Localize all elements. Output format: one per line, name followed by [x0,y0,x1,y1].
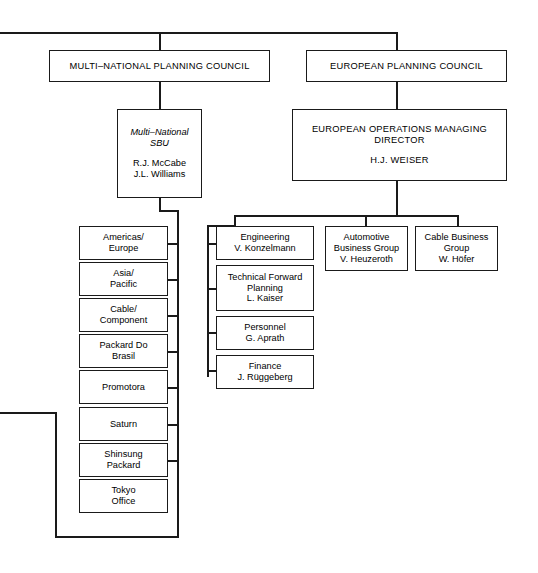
sbu-unit-7-line1: Shinsung [104,449,142,460]
box-multi-national-planning-council[interactable]: MULTI–NATIONAL PLANNING COUNCIL [49,50,270,82]
connector-epc-to-eomd [396,82,398,109]
connector-european-bus [234,215,458,217]
eomd-title-line1: EUROPEAN OPERATIONS MANAGING [312,124,487,135]
european-function-3-line2: G. Aprath [246,333,285,344]
eomd-title-line2: DIRECTOR [374,135,424,146]
connector-sbu-spine [177,210,179,537]
european-function-3-line1: Personnel [244,322,285,333]
box-european-business-group-2[interactable]: Cable Business Group W. Höfer [415,226,498,271]
epc-label: EUROPEAN PLANNING COUNCIL [330,61,483,72]
box-european-function-3[interactable]: Personnel G. Aprath [216,316,314,350]
european-bg-2-line1: Cable Business [425,232,489,243]
box-european-planning-council[interactable]: EUROPEAN PLANNING COUNCIL [306,50,507,82]
box-sbu-unit-2[interactable]: Asia/ Pacific [79,262,168,296]
sbu-unit-7-line2: Packard [107,460,141,471]
box-sbu-unit-6[interactable]: Saturn [79,407,168,441]
box-sbu-unit-3[interactable]: Cable/ Component [79,298,168,332]
connector-top-drop-mnpc [159,32,161,50]
european-function-1-line2: V. Konzelmann [234,243,295,254]
european-bg-1-line1: Automotive [344,232,390,243]
connector-top-bus [0,32,398,34]
european-function-1-line1: Engineering [240,232,289,243]
european-function-2-line1: Technical Forward [228,272,303,283]
european-bg-1-line3: V. Heuzeroth [340,254,393,265]
box-european-operations-managing-director[interactable]: EUROPEAN OPERATIONS MANAGING DIRECTOR H.… [292,109,507,181]
sbu-unit-8-line2: Office [112,496,136,507]
sbu-title-line2: SBU [150,138,169,149]
sbu-name-1: R.J. McCabe [133,158,186,169]
european-function-2-line2: Planning [247,283,283,294]
european-bg-2-line3: W. Höfer [439,254,475,265]
connector-bottom-inflow [0,412,57,414]
mnpc-label: MULTI–NATIONAL PLANNING COUNCIL [69,61,249,72]
connector-bottom-return [55,536,179,538]
european-bg-1-line2: Business Group [334,243,399,254]
box-european-function-1[interactable]: Engineering V. Konzelmann [216,226,314,260]
sbu-unit-3-line2: Component [100,315,148,326]
connector-european-functions-spine [207,225,209,377]
sbu-unit-2-line1: Asia/ [113,268,133,279]
connector-eomd-drop [396,181,398,216]
connector-drop-cable [457,215,459,226]
connector-mnpc-to-sbu [159,82,161,109]
european-function-2-line3: L. Kaiser [247,293,283,304]
sbu-unit-8-line1: Tokyo [112,485,136,496]
box-european-function-2[interactable]: Technical Forward Planning L. Kaiser [216,265,314,311]
european-bg-2-line2: Group [444,243,470,254]
sbu-title-line1: Multi–National [130,127,188,138]
sbu-unit-5-line1: Promotora [102,382,145,393]
sbu-unit-1-line2: Europe [109,243,139,254]
sbu-unit-6-line1: Saturn [110,419,137,430]
connector-bottom-riser [55,412,57,538]
box-sbu-unit-5[interactable]: Promotora [79,370,168,404]
sbu-unit-3-line1: Cable/ [110,304,137,315]
box-sbu-unit-7[interactable]: Shinsung Packard [79,443,168,477]
sbu-unit-2-line2: Pacific [110,279,137,290]
european-function-4-line1: Finance [249,361,282,372]
connector-top-drop-epc [396,32,398,50]
connector-drop-automotive [365,215,367,226]
box-multi-national-sbu[interactable]: Multi–National SBU R.J. McCabe J.L. Will… [117,109,202,198]
box-sbu-unit-4[interactable]: Packard Do Brasil [79,334,168,368]
box-sbu-unit-1[interactable]: Americas/ Europe [79,226,168,260]
box-european-business-group-1[interactable]: Automotive Business Group V. Heuzeroth [325,226,408,271]
sbu-name-2: J.L. Williams [134,169,186,180]
eomd-name: H.J. WEISER [370,155,429,166]
european-function-4-line2: J. Rüggeberg [237,372,292,383]
box-european-function-4[interactable]: Finance J. Rüggeberg [216,355,314,389]
org-chart-canvas: MULTI–NATIONAL PLANNING COUNCIL EUROPEAN… [0,0,538,573]
box-sbu-unit-8[interactable]: Tokyo Office [79,479,168,513]
sbu-unit-4-line1: Packard Do [99,340,147,351]
sbu-unit-4-line2: Brasil [112,351,135,362]
connector-sbu-elbow [159,210,179,212]
sbu-unit-1-line1: Americas/ [103,232,144,243]
